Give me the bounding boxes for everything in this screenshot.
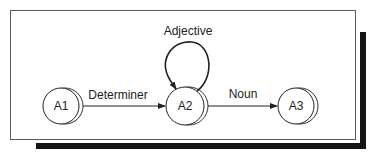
- node-a2-label: A2: [178, 99, 193, 113]
- edge-determiner-label: Determiner: [88, 88, 147, 102]
- edge-adjective-loop: Adjective: [164, 24, 213, 91]
- edge-adjective-label: Adjective: [164, 24, 213, 38]
- node-a3-label: A3: [289, 99, 304, 113]
- node-a3: A3: [278, 88, 318, 124]
- edge-noun-label: Noun: [229, 87, 258, 101]
- edge-noun: Noun: [208, 87, 277, 106]
- edge-determiner: Determiner: [83, 88, 165, 106]
- node-a1: A1: [43, 88, 83, 124]
- edge-adjective-loop-arrow: [166, 42, 209, 91]
- node-a1-label: A1: [54, 99, 69, 113]
- node-a2: A2: [166, 87, 208, 125]
- state-diagram: A1 A2 A3 Determiner Noun Adjective: [0, 0, 374, 153]
